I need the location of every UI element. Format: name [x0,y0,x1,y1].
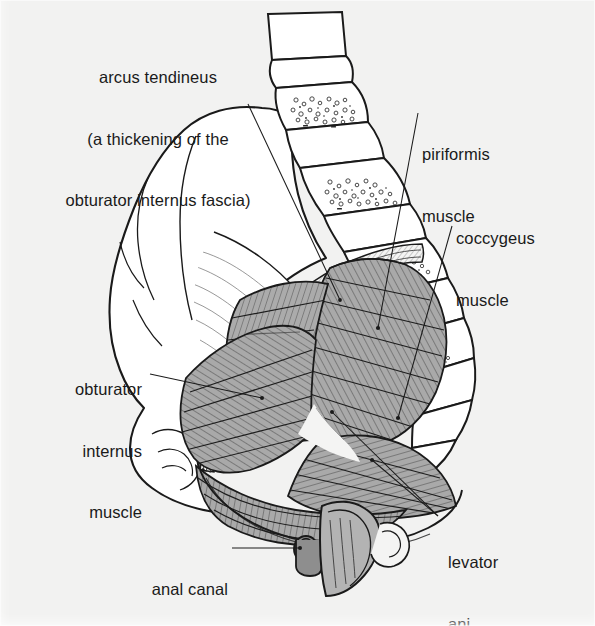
label-coccygeus-line2: muscle [456,290,595,311]
label-levator-ani: levator ani muscle [448,511,578,626]
label-arcus-tendineus: arcus tendineus (a thickening of the obt… [28,26,288,252]
label-arcus-tendineus-line1: arcus tendineus [28,67,288,88]
label-obturator-internus: obturator internus muscle [18,338,142,564]
label-anal-canal-line1: anal canal [88,579,228,600]
label-coccygeus: coccygeus muscle [456,187,595,351]
anal-canal [294,536,322,576]
label-levator-ani-line2: ani [448,614,578,626]
anatomy-figure: arcus tendineus (a thickening of the obt… [0,0,595,626]
label-piriformis-line1: piriformis [422,144,572,165]
label-anal-canal: anal canal [88,538,228,626]
label-obturator-internus-line2: internus [18,441,142,462]
label-obturator-internus-line3: muscle [18,502,142,523]
label-arcus-tendineus-line3: obturator internus fascia) [28,190,288,211]
label-coccygeus-line1: coccygeus [456,228,595,249]
label-levator-ani-line1: levator [448,552,578,573]
label-obturator-internus-line1: obturator [18,379,142,400]
label-arcus-tendineus-line2: (a thickening of the [28,129,288,150]
